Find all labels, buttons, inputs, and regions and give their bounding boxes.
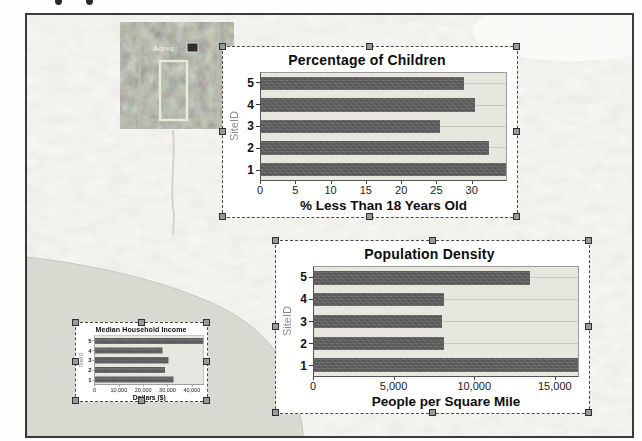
tick-label: 5,000	[380, 380, 408, 392]
category-label: 2	[240, 137, 260, 159]
aerial-photo-inset[interactable]: Acres	[120, 22, 234, 129]
tick-label: 20,000	[135, 387, 152, 393]
bar-site-1	[314, 358, 578, 372]
plot-area	[95, 336, 205, 386]
selection-handle[interactable]	[513, 128, 520, 135]
category-label: 3	[293, 310, 313, 332]
aerial-photo-texture	[120, 22, 234, 129]
selection-handle[interactable]	[366, 213, 373, 220]
category-label: 1	[85, 375, 95, 385]
bar-site-5	[95, 338, 204, 344]
tick-label: 0	[310, 380, 316, 392]
x-axis-ticks: 05,00010,00015,000	[313, 377, 579, 392]
bar-site-4	[95, 348, 163, 354]
selection-handle[interactable]	[272, 409, 279, 416]
selection-handle[interactable]	[366, 43, 373, 50]
plot-area	[260, 72, 507, 181]
bar-site-3	[314, 315, 442, 329]
selection-handle[interactable]	[272, 237, 279, 244]
selection-handle[interactable]	[219, 213, 226, 220]
scanned-figure-page: Acres Percentage of Children SiteID 5432…	[0, 0, 642, 441]
tick-label: 15	[360, 184, 372, 196]
selection-handle[interactable]	[203, 358, 210, 365]
selection-handle[interactable]	[72, 358, 79, 365]
y-axis-label: SiteID	[227, 72, 240, 181]
selection-handle[interactable]	[429, 409, 436, 416]
tick-label: 40,000	[183, 387, 200, 393]
category-label: 2	[293, 333, 313, 355]
category-label: 1	[293, 355, 313, 377]
photo-road-left	[138, 22, 141, 129]
chart-median-household-income[interactable]: Median Household Income SiteID 54321 010…	[75, 322, 208, 402]
photo-road-right	[217, 22, 220, 129]
category-label: 1	[240, 159, 260, 181]
bar-site-1	[261, 163, 506, 176]
category-label: 3	[85, 355, 95, 365]
tick-label: 20	[395, 184, 407, 196]
category-label: 4	[293, 288, 313, 310]
bar-site-4	[314, 293, 444, 307]
selection-handle[interactable]	[219, 43, 226, 50]
selection-handle[interactable]	[429, 237, 436, 244]
selection-handle[interactable]	[513, 213, 520, 220]
x-axis-label: % Less Than 18 Years Old	[260, 196, 507, 213]
y-axis-label: SiteID	[280, 266, 293, 377]
selection-handle[interactable]	[585, 409, 592, 416]
selection-handle[interactable]	[585, 237, 592, 244]
bar-site-4	[261, 98, 475, 111]
tick-label: 10,000	[110, 387, 127, 393]
category-label: 5	[85, 336, 95, 346]
tick-label: 0	[93, 387, 96, 393]
bar-site-2	[261, 141, 489, 154]
tick-label: 30,000	[159, 387, 176, 393]
chart-percentage-of-children[interactable]: Percentage of Children SiteID 54321 0510…	[222, 46, 518, 218]
cropped-text-descender	[55, 0, 62, 5]
tick-label: 25	[430, 184, 442, 196]
bar-site-5	[314, 271, 530, 285]
x-axis-label: Dollars ($)	[95, 393, 205, 402]
x-axis-ticks: 010,00020,00030,00040,000	[95, 385, 205, 393]
map-layout-frame: Acres Percentage of Children SiteID 5432…	[25, 13, 634, 438]
chart-population-density[interactable]: Population Density SiteID 54321 05,00010…	[275, 240, 590, 414]
selection-handle[interactable]	[138, 397, 145, 404]
category-label: 4	[240, 94, 260, 116]
bar-site-2	[95, 367, 165, 373]
tick-label: 30	[466, 184, 478, 196]
bar-site-2	[314, 337, 444, 351]
plot-area	[313, 266, 579, 377]
selection-handle[interactable]	[219, 128, 226, 135]
x-axis-ticks: 051015202530	[260, 181, 507, 196]
photo-acres-label: Acres	[153, 44, 174, 53]
cropped-text-descender	[86, 0, 93, 5]
category-label: 4	[85, 345, 95, 355]
selection-handle[interactable]	[585, 323, 592, 330]
selection-handle[interactable]	[72, 397, 79, 404]
selection-handle[interactable]	[138, 319, 145, 326]
bar-site-3	[95, 357, 169, 363]
tick-label: 0	[257, 184, 263, 196]
bar-site-3	[261, 120, 440, 133]
selection-handle[interactable]	[203, 319, 210, 326]
selection-handle[interactable]	[272, 323, 279, 330]
bar-site-5	[261, 77, 464, 90]
y-axis-categories: 54321	[293, 266, 313, 377]
y-axis-categories: 54321	[240, 72, 260, 181]
chart-title: Median Household Income	[78, 325, 204, 336]
tick-label: 10,000	[457, 380, 491, 392]
chart-title: Population Density	[280, 244, 579, 266]
tick-label: 15,000	[538, 380, 572, 392]
selection-handle[interactable]	[72, 319, 79, 326]
category-label: 3	[240, 116, 260, 138]
category-label: 2	[85, 365, 95, 375]
tick-label: 5	[292, 184, 298, 196]
chart-title: Percentage of Children	[227, 50, 507, 72]
photo-marker-badge	[187, 43, 198, 52]
tick-label: 10	[324, 184, 336, 196]
bar-site-1	[95, 377, 173, 383]
selection-handle[interactable]	[513, 43, 520, 50]
x-axis-label: People per Square Mile	[313, 392, 579, 409]
y-axis-categories: 54321	[85, 336, 95, 386]
category-label: 5	[240, 72, 260, 94]
selection-handle[interactable]	[203, 397, 210, 404]
category-label: 5	[293, 266, 313, 288]
